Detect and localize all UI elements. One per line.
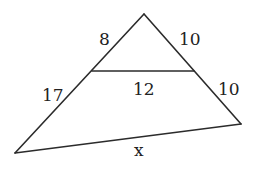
label-base: x	[134, 142, 144, 159]
left-side-edge	[15, 14, 144, 153]
label-upper-left-side: 8	[99, 31, 110, 48]
base-edge	[15, 124, 241, 153]
label-lower-right-side: 10	[218, 81, 240, 98]
label-midsegment: 12	[133, 81, 155, 98]
label-upper-right-side: 10	[179, 31, 201, 48]
label-lower-left-side: 17	[42, 87, 64, 104]
